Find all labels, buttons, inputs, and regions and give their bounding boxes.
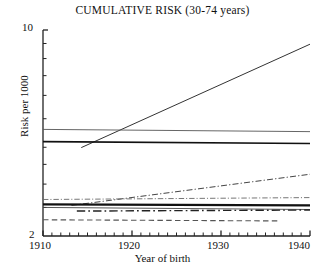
series-line-rising-solid bbox=[81, 44, 310, 147]
plot-area bbox=[0, 0, 325, 271]
series-lines bbox=[43, 44, 310, 221]
chart-container: CUMULATIVE RISK (30-74 years) Risk per 1… bbox=[0, 0, 325, 271]
series-line-lower-dashed bbox=[43, 220, 279, 221]
series-line-upper-thin-solid bbox=[43, 129, 310, 131]
series-line-cluster-thin-solid bbox=[43, 207, 310, 209]
series-line-cluster-dashdot-lower bbox=[77, 210, 310, 211]
series-line-cluster-dashdot-upper bbox=[43, 198, 310, 200]
series-line-cluster-thick-solid bbox=[43, 204, 310, 205]
series-line-upper-thick-solid bbox=[43, 142, 310, 144]
series-line-rising-dashdot bbox=[71, 174, 310, 205]
